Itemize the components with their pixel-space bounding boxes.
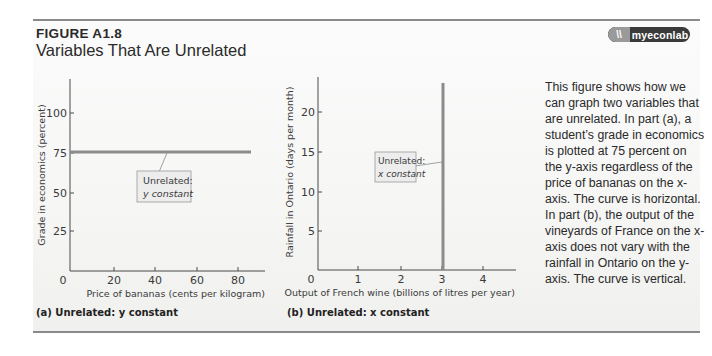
chart-b-y-ticks: 20 15 10 5: [301, 106, 322, 238]
chart-b-annotation-line2: x constant: [377, 169, 426, 179]
chart-a-caption: (a) Unrelated: y constant: [36, 307, 178, 318]
chart-b-xtick-4: 4: [480, 273, 487, 286]
chart-b-xtick-2: 2: [398, 273, 405, 286]
chart-b-xtick-3: 3: [439, 273, 446, 286]
chart-b-ytick-20: 20: [301, 106, 315, 119]
figure-description: This figure shows how we can graph two v…: [545, 79, 705, 287]
chart-b-ytick-10: 10: [301, 186, 315, 199]
chart-b-ytick-5: 5: [308, 225, 315, 238]
chart-b-x-label: Output of French wine (billions of litre…: [284, 287, 515, 298]
description-part-b: In part (b), the output of the vineyards…: [545, 207, 705, 287]
chart-b-annotation-line1: Unrelated:: [378, 156, 425, 166]
chart-b-xtick-1: 1: [355, 273, 362, 286]
chart-b-ytick-15: 15: [301, 146, 315, 159]
description-part-a: This figure shows how we can graph two v…: [545, 79, 705, 207]
chart-b-x-ticks: 0 1 2 3 4: [308, 266, 487, 286]
chart-b-y-label: Rainfall in Ontario (days per month): [284, 87, 295, 258]
chart-b-caption: (b) Unrelated: x constant: [287, 307, 429, 318]
chart-b-xtick-0: 0: [308, 273, 315, 286]
